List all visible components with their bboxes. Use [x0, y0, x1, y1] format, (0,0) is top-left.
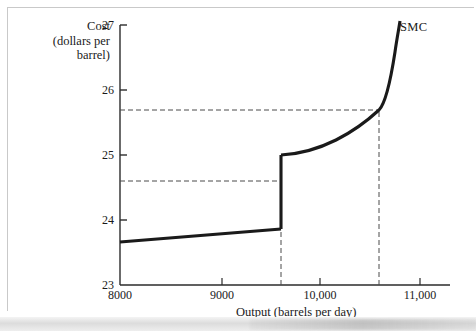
chart-svg — [0, 0, 476, 331]
smc-curve — [120, 21, 400, 242]
x-axis-ticks — [222, 278, 420, 285]
smc-cost-curve-chart: Cost (dollars per barrel) 27 26 25 24 23… — [0, 0, 476, 331]
y-axis-ticks — [120, 25, 127, 220]
smc-segment-rising — [281, 21, 400, 155]
smc-segment-flat — [120, 229, 281, 242]
page-scan-edge — [0, 317, 476, 331]
page-scan-smudge — [250, 319, 476, 330]
